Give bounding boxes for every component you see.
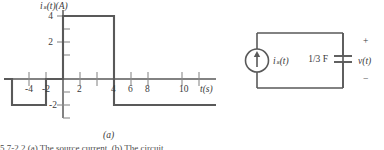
- circuit-loop-wires: [257, 33, 343, 88]
- x-tick-label-6: 6: [128, 84, 133, 94]
- x-tick-label-neg4: -4: [25, 84, 33, 94]
- waveform-panel: 4 2 -2 -4 -2 2 4 6 8 10 iₛ(t)(A) t(s) (a…: [0, 0, 232, 150]
- current-source-label: iₛ(t): [273, 56, 289, 67]
- current-direction-arrow: [254, 51, 260, 57]
- y-axis-title: iₛ(t)(A): [40, 1, 68, 12]
- figure-container: 4 2 -2 -4 -2 2 4 6 8 10 iₛ(t)(A) t(s) (a…: [0, 0, 384, 150]
- figure-caption: 5.7-2 2.(a) The source current. (b) The …: [0, 143, 384, 150]
- y-tick-label-2: 2: [48, 37, 53, 47]
- circuit-panel: iₛ(t) 1/3 F v(t) + − (b): [232, 0, 384, 150]
- x-tick-label-10: 10: [179, 84, 189, 94]
- polarity-minus-label: −: [363, 74, 368, 84]
- x-tick-label-8: 8: [145, 84, 150, 94]
- polarity-plus-label: +: [363, 36, 368, 46]
- x-tick-label-neg2: -2: [42, 84, 50, 94]
- current-source-symbol: [246, 49, 269, 72]
- circuit-diagram: iₛ(t) 1/3 F v(t) + −: [232, 0, 384, 128]
- voltage-label: v(t): [358, 56, 371, 67]
- x-axis-title: t(s): [200, 84, 213, 95]
- subcaption-a: (a): [103, 130, 114, 140]
- capacitor-value-label: 1/3 F: [308, 54, 328, 64]
- y-tick-label-4: 4: [48, 11, 53, 21]
- waveform-chart: 4 2 -2 -4 -2 2 4 6 8 10 iₛ(t)(A) t(s): [0, 0, 232, 132]
- x-tick-label-2: 2: [77, 84, 82, 94]
- y-tick-label-neg2: -2: [49, 100, 57, 110]
- x-tick-label-4: 4: [111, 84, 116, 94]
